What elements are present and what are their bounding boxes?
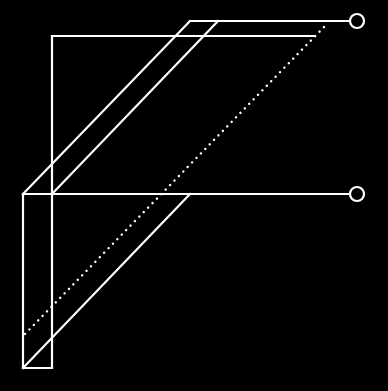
diagonal-inner-upper-line <box>52 21 218 194</box>
dotted-diagonal-line <box>25 25 326 334</box>
top-terminal-circle <box>350 14 364 28</box>
terminals-group <box>350 14 364 201</box>
diagonal-lower-line <box>23 194 190 368</box>
diagonal-outer-upper-line <box>23 21 190 194</box>
middle-terminal-circle <box>350 187 364 201</box>
solid-lines-group <box>23 21 350 368</box>
line-diagram <box>0 0 388 391</box>
dotted-lines-group <box>25 25 326 334</box>
